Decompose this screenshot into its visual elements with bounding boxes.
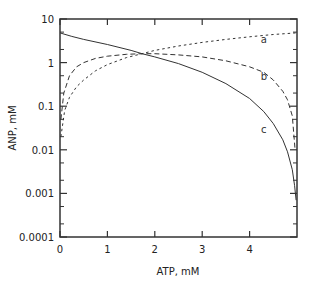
x-tick-label: 1 (104, 244, 110, 255)
y-tick-label: 1 (48, 58, 54, 69)
x-tick-label: 3 (199, 244, 205, 255)
x-axis-label: ATP, mM (157, 266, 200, 277)
y-axis-tick-labels: 0.00010.0010.010.1110 (19, 14, 54, 243)
x-axis-tick-labels: 01234 (57, 244, 253, 255)
y-tick-label: 0.1 (38, 101, 54, 112)
curve-a (61, 33, 296, 137)
y-tick-label: 0.0001 (19, 232, 54, 243)
y-axis-label: ANP, mM (7, 105, 18, 150)
y-tick-label: 0.001 (25, 188, 54, 199)
x-axis-ticks (60, 19, 250, 237)
chart: 01234 0.00010.0010.010.1110 abc ATP, mM … (0, 0, 314, 299)
y-tick-label: 0.01 (32, 145, 54, 156)
y-tick-label: 10 (41, 14, 54, 25)
curves (60, 33, 296, 200)
curve-label-a: a (261, 34, 267, 45)
curve-label-c: c (261, 124, 267, 135)
curve-b (61, 54, 295, 150)
x-tick-label: 0 (57, 244, 63, 255)
curve-label-b: b (261, 71, 267, 82)
curve-labels: abc (261, 34, 267, 135)
x-tick-label: 4 (246, 244, 252, 255)
x-tick-label: 2 (152, 244, 158, 255)
